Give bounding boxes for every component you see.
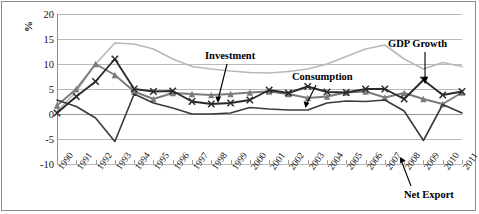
series-gdp-growth: [54, 61, 465, 109]
annotation-net-export: Net Export: [404, 189, 454, 200]
x-axis-tick-labels: 1990199119921993199419951996199719981999…: [57, 164, 462, 198]
y-axis-tick-labels: 20151050-5-10: [18, 14, 54, 164]
annotation-gdp-growth: GDP Growth: [388, 38, 447, 49]
series-lines: [57, 14, 462, 164]
y-tick--10: -10: [24, 159, 54, 170]
annotation-consumption: Consumption: [292, 71, 353, 82]
y-tick--5: -5: [24, 134, 54, 145]
y-tick-0: 0: [24, 109, 54, 120]
y-tick-10: 10: [24, 59, 54, 70]
plot-area: [57, 14, 462, 164]
y-tick-20: 20: [24, 9, 54, 20]
y-tick-15: 15: [24, 34, 54, 45]
chart-root: % 20151050-5-10 199019911992199319941995…: [0, 0, 479, 214]
y-tick-5: 5: [24, 84, 54, 95]
annotation-investment: Investment: [205, 50, 255, 61]
series-consumption: [54, 56, 465, 116]
